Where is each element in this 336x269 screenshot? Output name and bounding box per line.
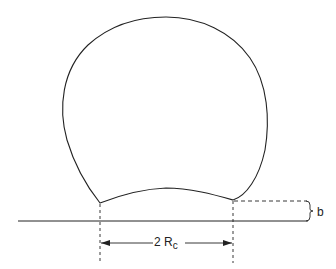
gap-label: b [317, 206, 324, 218]
gap-brace [306, 201, 313, 221]
drop-diagram [0, 0, 336, 269]
diagram-canvas: 2 Rc b [0, 0, 336, 269]
contact-width-label: 2 Rc [154, 236, 178, 248]
drop-outline [63, 17, 268, 203]
arrowhead-right-icon [223, 240, 232, 246]
arrowhead-left-icon [101, 240, 110, 246]
